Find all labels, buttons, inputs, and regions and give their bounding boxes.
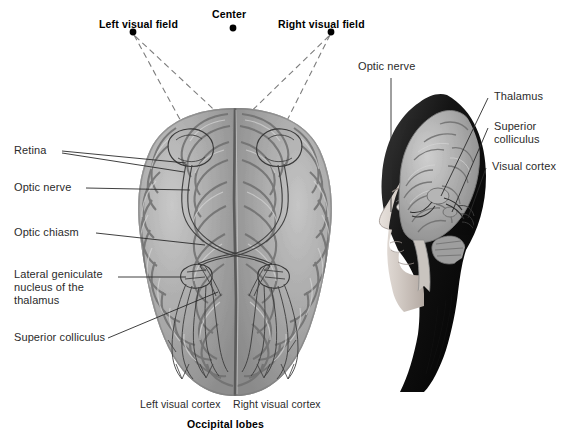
label-optic-nerve: Optic nerve (14, 181, 71, 194)
label-inset-superior-colliculus: Superior colliculus (494, 120, 554, 146)
figure-canvas: Left visual field Center Right visual fi… (0, 0, 566, 437)
label-inset-optic-nerve: Optic nerve (358, 60, 415, 73)
inset-thalamus (427, 188, 449, 204)
label-superior-colliculus: Superior colliculus (14, 331, 105, 344)
label-left-visual-cortex: Left visual cortex (140, 398, 221, 410)
label-inset-thalamus: Thalamus (494, 90, 543, 103)
center-dot (230, 25, 237, 32)
label-center: Center (212, 8, 246, 20)
label-occipital-lobes: Occipital lobes (187, 418, 264, 430)
longitudinal-fissure (234, 108, 236, 396)
visual-pathway-illustration (0, 0, 566, 437)
label-right-visual-cortex: Right visual cortex (233, 398, 321, 410)
head-lateral-inset (379, 94, 486, 392)
label-right-visual-field: Right visual field (278, 18, 365, 30)
brain-superior-view (130, 100, 340, 400)
label-left-visual-field: Left visual field (99, 18, 178, 30)
label-optic-chiasm: Optic chiasm (14, 226, 79, 239)
label-retina: Retina (14, 144, 46, 157)
label-inset-visual-cortex: Visual cortex (492, 160, 556, 173)
label-lateral-geniculate-nucleus: Lateral geniculate nucleus of the thalam… (14, 268, 116, 307)
